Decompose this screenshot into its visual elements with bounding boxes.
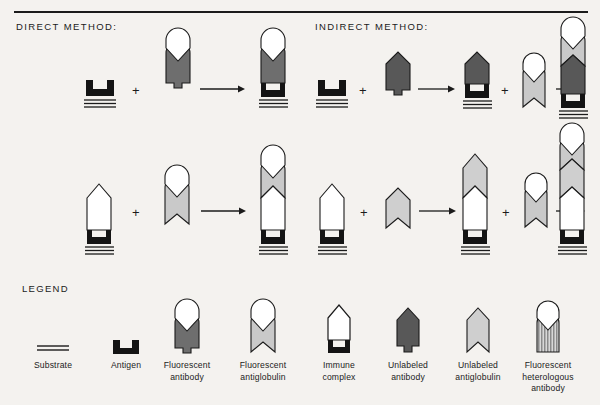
direct-row1-reactant-antigen bbox=[80, 78, 120, 108]
fluorescent-antiglobulin-glyph bbox=[518, 176, 554, 232]
legend-art-fluorescent-heterologous-antibody bbox=[500, 300, 596, 356]
top-rule-divider bbox=[14, 11, 588, 13]
indirect-row1-reactant-antigen bbox=[312, 78, 352, 108]
unlabeled-antiglobulin-on-immune-complex-glyph bbox=[454, 148, 496, 256]
unlabeled-antibody-icon bbox=[389, 302, 427, 356]
fluorescent-antiglobulin-on-antibody-antigen-glyph bbox=[552, 20, 594, 120]
reaction-arrow-icon bbox=[418, 84, 456, 94]
immune-complex-icon bbox=[320, 302, 358, 356]
indirect-row1-reactant-fluorescent-antiglobulin bbox=[516, 56, 552, 112]
unlabeled-antibody-glyph bbox=[378, 50, 418, 98]
substrate-lines-icon bbox=[33, 336, 73, 356]
legend-title: LEGEND bbox=[22, 283, 69, 294]
antigen-on-substrate-glyph bbox=[312, 78, 352, 108]
reaction-arrow-icon bbox=[200, 84, 246, 94]
fluorescent-antiglobulin-glyph bbox=[516, 56, 552, 112]
fluorescent-antiglobulin-on-stack-glyph bbox=[551, 126, 593, 256]
direct-method-title: DIRECT METHOD: bbox=[16, 21, 117, 32]
legend-item-fluorescent-heterologous-antibody: Fluorescent heterologous antibody bbox=[500, 300, 596, 395]
diagram-page: DIRECT METHOD: INDIRECT METHOD: + bbox=[0, 0, 600, 405]
fluorescent-antibody-glyph bbox=[158, 31, 198, 91]
indirect-row2-product bbox=[551, 126, 593, 256]
direct-row2-reactant-immune-complex bbox=[78, 178, 120, 256]
immune-complex-on-substrate-glyph bbox=[311, 178, 353, 256]
fluorescent-heterologous-antibody-icon bbox=[529, 302, 567, 356]
direct-row2-reactant-fluorescent-antiglobulin bbox=[156, 168, 198, 230]
indirect-row2-arrow-1 bbox=[419, 206, 457, 216]
indirect-row1-arrow-1 bbox=[418, 84, 456, 94]
immune-complex-on-substrate-glyph bbox=[78, 178, 120, 256]
fluorescent-antibody-icon bbox=[168, 302, 206, 356]
direct-row2-arrow bbox=[201, 206, 247, 216]
indirect-row2-plus-1: + bbox=[360, 206, 368, 219]
unlabeled-antiglobulin-glyph bbox=[378, 186, 418, 232]
indirect-row1-product bbox=[552, 20, 594, 120]
direct-row1-plus-1: + bbox=[132, 84, 140, 97]
indirect-method-title: INDIRECT METHOD: bbox=[315, 21, 429, 32]
antigen-notch-icon bbox=[109, 336, 143, 356]
direct-row2-plus-1: + bbox=[132, 206, 140, 219]
fluorescent-antiglobulin-glyph bbox=[156, 168, 198, 230]
direct-row2-product bbox=[252, 148, 294, 256]
legend-label-fluorescent-heterologous-antibody: Fluorescent heterologous antibody bbox=[500, 360, 596, 395]
fluorescent-antiglobulin-icon bbox=[244, 302, 282, 356]
direct-row1-arrow bbox=[200, 84, 246, 94]
indirect-row1-plus-2: + bbox=[501, 84, 509, 97]
indirect-row1-intermediate bbox=[456, 50, 498, 110]
indirect-row2-plus-2: + bbox=[502, 206, 510, 219]
indirect-row1-reactant-unlabeled-antibody bbox=[378, 50, 418, 98]
reaction-arrow-icon bbox=[201, 206, 247, 216]
indirect-row2-reactant-unlabeled-antiglobulin bbox=[378, 186, 418, 232]
indirect-row2-reactant-fluorescent-antiglobulin bbox=[518, 176, 554, 232]
unlabeled-antibody-bound-glyph bbox=[456, 50, 498, 110]
antigen-on-substrate-glyph bbox=[80, 78, 120, 108]
reaction-arrow-icon bbox=[419, 206, 457, 216]
unlabeled-antiglobulin-icon bbox=[459, 302, 497, 356]
indirect-row2-reactant-immune-complex bbox=[311, 178, 353, 256]
direct-row1-product bbox=[252, 31, 294, 109]
indirect-row1-plus-1: + bbox=[359, 84, 367, 97]
antiglobulin-bound-to-immune-complex-glyph bbox=[252, 148, 294, 256]
indirect-row2-intermediate bbox=[454, 148, 496, 256]
direct-row1-reactant-fluorescent-antibody bbox=[158, 31, 198, 91]
fluorescent-antibody-bound-glyph bbox=[252, 31, 294, 109]
